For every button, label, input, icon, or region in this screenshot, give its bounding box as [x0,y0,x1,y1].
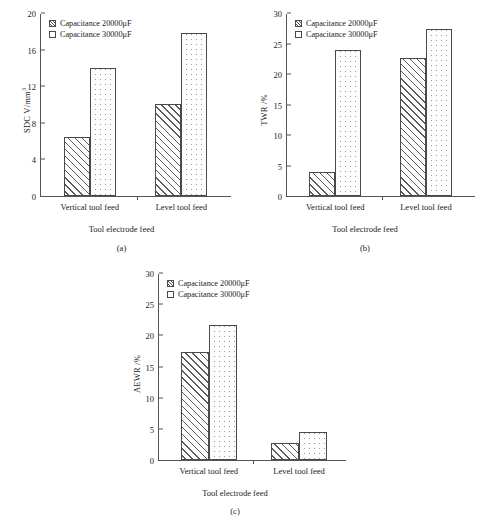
y-axis-label-a: SDC V/mm3 [21,88,32,133]
dotted-swatch-icon [49,31,56,38]
y-tick-mark [287,104,291,105]
y-tick-b-15: 15 [274,96,288,114]
y-tick-a-0: 0 [32,187,41,205]
hatched-swatch-icon [295,20,302,27]
y-tick-b-5: 5 [278,157,287,175]
legend-item-c-1: Capacitance 30000μF [167,290,249,299]
y-tick-c-0: 0 [150,451,159,469]
x-category-label-c-0: Vertical tool feed [180,466,239,476]
y-tick-a-16: 16 [28,41,42,59]
chart-panel-c: Capacitance 20000μFCapacitance 30000μF 0… [110,262,360,519]
bars-layer-c [159,274,346,460]
legend-item-label: Capacitance 30000μF [306,30,377,39]
panel-caption-a: (a) [0,243,243,253]
y-tick-b-30: 30 [274,4,288,22]
bar-c-0-0 [181,352,209,460]
bar-b-1-1 [426,29,452,196]
hatched-swatch-icon [167,280,174,287]
y-tick-label: 20 [28,10,42,19]
y-tick-label: 25 [274,41,288,50]
bar-b-0-0 [309,172,335,196]
y-tick-b-10: 10 [274,126,288,144]
y-tick-label: 10 [274,132,288,141]
y-tick-mark [41,49,45,50]
y-tick-label: 10 [146,395,160,404]
bar-a-1-0 [155,104,181,196]
y-tick-label: 30 [274,10,288,19]
y-tick-c-25: 25 [146,295,160,313]
legend-c: Capacitance 20000μFCapacitance 30000μF [167,279,249,299]
y-tick-mark [159,397,163,398]
y-tick-label: 5 [150,426,159,435]
y-tick-label: 8 [32,120,41,129]
y-tick-mark [159,273,163,274]
bars-layer-a [41,14,231,196]
legend-item-c-0: Capacitance 20000μF [167,279,249,288]
y-tick-b-0: 0 [278,187,287,205]
y-tick-mark [159,304,163,305]
y-axis-label-b: TWR /% [259,94,269,126]
y-label-exponent: 3 [21,88,27,91]
bars-layer-b [287,14,475,196]
x-axis-label-a: Tool electrode feed [0,224,243,234]
legend-item-label: Capacitance 20000μF [60,19,131,28]
x-category-label-a-1: Level tool feed [156,202,207,212]
y-tick-c-20: 20 [146,326,160,344]
legend-item-b-1: Capacitance 30000μF [295,30,377,39]
plot-area-b: Capacitance 20000μFCapacitance 30000μF 0… [286,14,475,197]
x-tick-mark-b [382,196,383,200]
plot-area-a: Capacitance 20000μFCapacitance 30000μF 0… [40,14,231,197]
legend-item-label: Capacitance 20000μF [306,19,377,28]
y-tick-mark [287,74,291,75]
x-category-label-c-1: Level tool feed [273,466,324,476]
y-tick-mark [287,43,291,44]
y-tick-mark [287,165,291,166]
panel-caption-b: (b) [243,243,487,253]
y-axis-label-c: AEWR /% [132,355,142,393]
legend-b: Capacitance 20000μFCapacitance 30000μF [295,19,377,39]
y-tick-mark [159,335,163,336]
legend-item-b-0: Capacitance 20000μF [295,19,377,28]
chart-panel-b: Capacitance 20000μFCapacitance 30000μF 0… [243,0,487,258]
y-tick-label: 20 [274,71,288,80]
x-tick-mark-c [253,460,254,464]
bar-a-0-1 [90,68,116,196]
y-tick-mark [159,366,163,367]
legend-item-label: Capacitance 30000μF [60,30,131,39]
y-tick-label: 0 [32,193,41,202]
y-tick-mark [41,159,45,160]
bar-b-1-0 [400,58,426,196]
x-tick-mark-a [137,196,138,200]
chart-panel-a: Capacitance 20000μFCapacitance 30000μF 0… [0,0,243,258]
bar-c-0-1 [209,325,237,460]
legend-a: Capacitance 20000μFCapacitance 30000μF [49,19,131,39]
x-category-label-a-0: Vertical tool feed [60,202,119,212]
bar-a-1-1 [181,33,207,196]
legend-item-a-1: Capacitance 30000μF [49,30,131,39]
y-tick-c-5: 5 [150,420,159,438]
x-category-label-b-0: Vertical tool feed [306,202,365,212]
y-tick-mark [287,135,291,136]
y-tick-label: 25 [146,301,160,310]
y-tick-c-10: 10 [146,389,160,407]
dotted-swatch-icon [167,291,174,298]
y-tick-a-8: 8 [32,114,41,132]
x-axis-label-c: Tool electrode feed [110,488,360,498]
y-tick-label: 0 [278,193,287,202]
x-category-label-b-1: Level tool feed [400,202,451,212]
legend-item-label: Capacitance 30000μF [178,290,249,299]
panel-caption-c: (c) [110,506,360,516]
y-tick-label: 16 [28,47,42,56]
bar-a-0-0 [64,137,90,196]
x-axis-label-b: Tool electrode feed [243,224,487,234]
legend-item-a-0: Capacitance 20000μF [49,19,131,28]
plot-area-c: Capacitance 20000μFCapacitance 30000μF 0… [158,274,346,461]
y-tick-mark [287,13,291,14]
y-tick-c-30: 30 [146,264,160,282]
y-tick-c-15: 15 [146,358,160,376]
y-tick-label: 4 [32,156,41,165]
bar-c-1-0 [271,443,299,460]
dotted-swatch-icon [295,31,302,38]
figure-page: { "figure": { "panels": [ { "caption": "… [0,0,487,519]
legend-item-label: Capacitance 20000μF [178,279,249,288]
